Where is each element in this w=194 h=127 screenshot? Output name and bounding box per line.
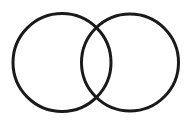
right-circle — [82, 14, 179, 111]
venn-diagram — [0, 0, 194, 127]
